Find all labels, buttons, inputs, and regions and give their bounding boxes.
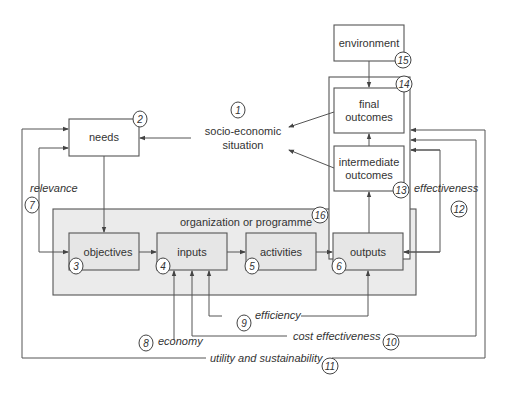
num-circle-7: 7 — [25, 197, 39, 213]
num-circle-1: 1 — [231, 102, 245, 118]
environment-box: environment — [334, 25, 404, 61]
utility-label: utility and sustainability — [210, 352, 324, 364]
num-circle-3: 3 — [69, 258, 83, 274]
intermediate-to-socio-arrow — [289, 150, 334, 168]
intermediate-outcomes-label-2: outcomes — [345, 169, 393, 181]
num-circle-2: 2 — [133, 111, 147, 127]
svg-text:3: 3 — [73, 261, 79, 272]
num-circle-15: 15 — [395, 52, 411, 68]
svg-text:6: 6 — [336, 261, 342, 272]
relevance-label: relevance — [30, 182, 78, 194]
svg-text:14: 14 — [398, 79, 410, 90]
economy-label: economy — [158, 335, 204, 347]
svg-text:8: 8 — [143, 338, 149, 349]
num-circle-4: 4 — [156, 258, 170, 274]
svg-text:13: 13 — [395, 185, 407, 196]
effectiveness-label: effectiveness — [414, 182, 479, 194]
final-to-socio-arrow — [289, 112, 334, 127]
final-outcomes-label-1: final — [359, 98, 379, 110]
final-outcomes-box: final outcomes — [334, 88, 404, 133]
socio-economic-label-1: socio-economic — [205, 125, 282, 137]
num-circle-5: 5 — [245, 258, 259, 274]
inputs-label: inputs — [177, 246, 207, 258]
svg-text:5: 5 — [249, 261, 255, 272]
svg-text:9: 9 — [241, 318, 247, 329]
num-circle-11: 11 — [322, 358, 338, 374]
svg-text:16: 16 — [314, 210, 326, 221]
num-circle-12: 12 — [451, 201, 467, 217]
svg-text:4: 4 — [160, 261, 166, 272]
num-circle-13: 13 — [393, 182, 409, 198]
socio-economic-label-2: situation — [223, 139, 264, 151]
outputs-label: outputs — [350, 246, 387, 258]
cost-effectiveness-label: cost effectiveness — [293, 330, 381, 342]
activities-label: activities — [260, 246, 303, 258]
svg-text:1: 1 — [235, 105, 241, 116]
svg-text:15: 15 — [397, 55, 409, 66]
svg-text:7: 7 — [29, 200, 35, 211]
num-circle-9: 9 — [237, 315, 251, 331]
num-circle-6: 6 — [332, 258, 346, 274]
needs-label: needs — [89, 131, 119, 143]
svg-text:10: 10 — [385, 337, 397, 348]
needs-box: needs — [69, 119, 139, 156]
num-circle-14: 14 — [396, 76, 412, 92]
efficiency-label: efficiency — [255, 309, 302, 321]
num-circle-8: 8 — [139, 335, 153, 351]
intermediate-outcomes-label-1: intermediate — [339, 156, 400, 168]
svg-text:11: 11 — [325, 361, 335, 372]
svg-text:2: 2 — [136, 114, 143, 125]
evaluation-diagram: organization or programme environment fi… — [0, 0, 507, 393]
final-outcomes-label-2: outcomes — [345, 111, 393, 123]
organization-label: organization or programme — [180, 216, 312, 228]
num-circle-10: 10 — [383, 334, 399, 350]
intermediate-outcomes-box: intermediate outcomes — [334, 146, 404, 191]
svg-text:12: 12 — [453, 204, 465, 215]
objectives-label: objectives — [84, 246, 133, 258]
num-circle-16: 16 — [312, 207, 328, 223]
environment-label: environment — [339, 37, 400, 49]
